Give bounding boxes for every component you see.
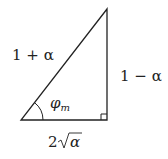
right-angle-marker [101, 114, 107, 120]
angle-arc [35, 103, 44, 120]
base-coef: 2 [48, 135, 58, 150]
hypotenuse-label: 1 + α [12, 48, 54, 63]
sqrt-radical [58, 133, 70, 148]
angle-symbol: φ [50, 94, 61, 112]
base-radicand: α [70, 135, 80, 150]
angle-label: φm [50, 96, 70, 113]
angle-subscript: m [61, 102, 70, 113]
vertical-leg-label: 1 − α [120, 69, 162, 84]
